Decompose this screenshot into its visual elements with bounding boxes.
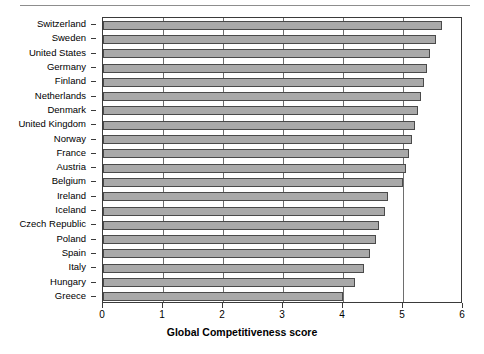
x-tick-5 (402, 303, 403, 308)
y-tick (91, 124, 96, 125)
bar-row (103, 192, 461, 201)
y-label-finland: Finland (55, 76, 86, 86)
x-tick-label-6: 6 (447, 309, 477, 320)
x-tick-0 (102, 303, 103, 308)
bar-row (103, 278, 461, 287)
bars-layer (103, 18, 461, 302)
bar-row (103, 106, 461, 115)
y-tick (91, 38, 96, 39)
bar-france (103, 149, 409, 158)
y-label-spain: Spain (62, 248, 86, 258)
bar-row (103, 164, 461, 173)
y-tick (91, 96, 96, 97)
y-tick (91, 81, 96, 82)
bar-row (103, 64, 461, 73)
bar-norway (103, 135, 412, 144)
bar-czech-republic (103, 221, 379, 230)
bar-denmark (103, 106, 418, 115)
y-tick (91, 53, 96, 54)
x-axis-ticks: 0123456 (0, 303, 484, 323)
y-label-united-states: United States (29, 48, 86, 58)
bar-greece (103, 292, 343, 301)
bar-ireland (103, 192, 388, 201)
x-tick-2 (222, 303, 223, 308)
x-tick-label-4: 4 (327, 309, 357, 320)
y-tick (91, 239, 96, 240)
chart-figure: SwitzerlandSwedenUnited StatesGermanyFin… (0, 0, 484, 354)
bar-switzerland (103, 21, 442, 30)
bar-iceland (103, 207, 385, 216)
y-label-belgium: Belgium (52, 176, 86, 186)
plot-area (102, 17, 462, 303)
bar-finland (103, 78, 424, 87)
y-tick (91, 224, 96, 225)
bar-row (103, 149, 461, 158)
x-axis-title: Global Competitiveness score (0, 326, 484, 338)
y-label-hungary: Hungary (50, 277, 86, 287)
y-label-norway: Norway (54, 134, 86, 144)
y-tick (91, 210, 96, 211)
y-label-united-kingdom: United Kingdom (18, 119, 86, 129)
bar-row (103, 35, 461, 44)
bar-belgium (103, 178, 403, 187)
bar-hungary (103, 278, 355, 287)
bar-row (103, 21, 461, 30)
bar-netherlands (103, 92, 421, 101)
bar-row (103, 207, 461, 216)
y-tick (91, 153, 96, 154)
y-tick (91, 110, 96, 111)
x-tick-label-5: 5 (387, 309, 417, 320)
y-label-france: France (56, 148, 86, 158)
bar-row (103, 264, 461, 273)
bar-row (103, 135, 461, 144)
y-tick (91, 67, 96, 68)
y-label-italy: Italy (69, 262, 86, 272)
bar-united-states (103, 49, 430, 58)
bar-sweden (103, 35, 436, 44)
x-tick-6 (462, 303, 463, 308)
y-label-czech-republic: Czech Republic (19, 219, 86, 229)
y-label-germany: Germany (47, 62, 86, 72)
bar-row (103, 235, 461, 244)
x-tick-label-3: 3 (267, 309, 297, 320)
y-tick (91, 253, 96, 254)
bar-row (103, 292, 461, 301)
y-tick (91, 24, 96, 25)
bar-poland (103, 235, 376, 244)
bar-row (103, 121, 461, 130)
x-tick-label-2: 2 (207, 309, 237, 320)
x-tick-3 (282, 303, 283, 308)
bar-row (103, 49, 461, 58)
bar-austria (103, 164, 406, 173)
y-tick (91, 282, 96, 283)
y-tick (91, 167, 96, 168)
y-tick (91, 196, 96, 197)
x-tick-1 (162, 303, 163, 308)
y-label-netherlands: Netherlands (35, 91, 86, 101)
bar-row (103, 249, 461, 258)
y-label-greece: Greece (55, 291, 86, 301)
bar-germany (103, 64, 427, 73)
x-tick-4 (342, 303, 343, 308)
y-label-poland: Poland (56, 234, 86, 244)
y-label-iceland: Iceland (55, 205, 86, 215)
bar-united-kingdom (103, 121, 415, 130)
y-tick (91, 267, 96, 268)
y-label-sweden: Sweden (52, 33, 86, 43)
y-axis-category-labels: SwitzerlandSwedenUnited StatesGermanyFin… (0, 17, 96, 303)
y-label-austria: Austria (56, 162, 86, 172)
x-tick-label-0: 0 (87, 309, 117, 320)
bar-italy (103, 264, 364, 273)
y-tick (91, 181, 96, 182)
y-label-ireland: Ireland (57, 191, 86, 201)
bar-row (103, 92, 461, 101)
y-tick (91, 296, 96, 297)
y-label-switzerland: Switzerland (37, 19, 86, 29)
bar-row (103, 178, 461, 187)
x-tick-label-1: 1 (147, 309, 177, 320)
y-tick (91, 139, 96, 140)
page-rule (20, 5, 470, 6)
bar-row (103, 221, 461, 230)
bar-row (103, 78, 461, 87)
y-label-denmark: Denmark (47, 105, 86, 115)
